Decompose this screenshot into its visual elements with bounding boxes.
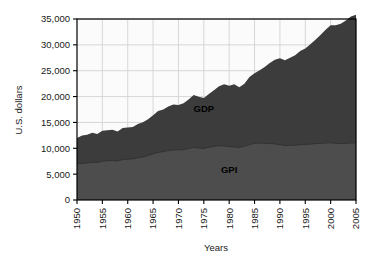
y-axis-title: U.S. dollars bbox=[13, 85, 24, 134]
x-tick-label: 1975 bbox=[198, 208, 209, 229]
x-tick-label: 2000 bbox=[325, 208, 336, 229]
x-tick-label: 1985 bbox=[249, 208, 260, 229]
x-tick-label: 1970 bbox=[173, 208, 184, 229]
y-tick-label: 15,000 bbox=[41, 117, 70, 128]
series-label-gpi: GPI bbox=[221, 164, 237, 175]
y-tick-label: 5,000 bbox=[46, 169, 70, 180]
x-axis: 1950195519601965197019751980198519901995… bbox=[71, 200, 361, 229]
y-tick-label: 10,000 bbox=[41, 143, 70, 154]
series-label-gdp: GDP bbox=[194, 103, 215, 114]
x-axis-title: Years bbox=[204, 242, 228, 253]
y-tick-label: 25,000 bbox=[41, 65, 70, 76]
x-tick-label: 1980 bbox=[224, 208, 235, 229]
y-tick-label: 35,000 bbox=[41, 13, 70, 24]
x-tick-label: 1955 bbox=[97, 208, 108, 229]
y-tick-label: 20,000 bbox=[41, 91, 70, 102]
x-tick-label: 1995 bbox=[300, 208, 311, 229]
y-tick-label: 0 bbox=[65, 194, 70, 205]
chart-figure: 05,00010,00015,00020,00025,00030,00035,0… bbox=[0, 0, 379, 270]
x-tick-label: 1965 bbox=[147, 208, 158, 229]
x-tick-label: 1950 bbox=[71, 208, 82, 229]
y-tick-label: 30,000 bbox=[41, 39, 70, 50]
x-tick-label: 2005 bbox=[350, 208, 361, 229]
x-tick-label: 1960 bbox=[122, 208, 133, 229]
y-axis: 05,00010,00015,00020,00025,00030,00035,0… bbox=[41, 13, 77, 205]
x-tick-label: 1990 bbox=[274, 208, 285, 229]
